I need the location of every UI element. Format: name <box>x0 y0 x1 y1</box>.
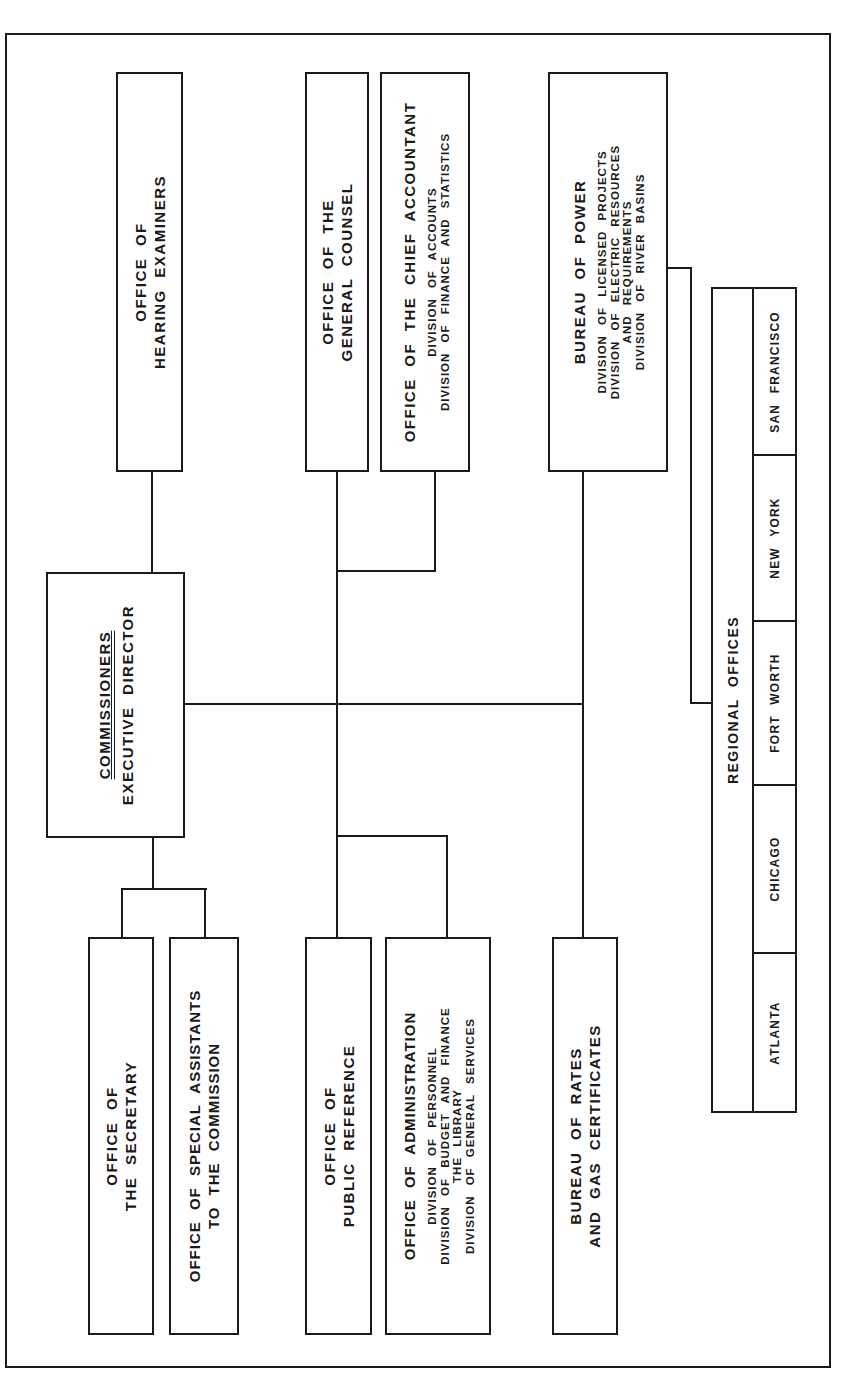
box-rates-gas[interactable]: BUREAU OF RATES AND GAS CERTIFICATES <box>552 937 618 1335</box>
regional-city-atlanta[interactable]: ATLANTA <box>754 954 795 1111</box>
regional-city-san-francisco[interactable]: SAN FRANCISCO <box>754 289 795 456</box>
hearing-line1: OFFICE OF <box>131 222 150 322</box>
hearing-line2: HEARING EXAMINERS <box>150 175 169 369</box>
connector-power-regional-top <box>667 267 692 269</box>
administration-library: THE LIBRARY <box>451 1089 464 1183</box>
regional-city-new-york[interactable]: NEW YORK <box>754 456 795 622</box>
counsel-line1: OFFICE OF THE <box>318 199 337 345</box>
connector-administration-join <box>337 835 448 837</box>
regional-title: REGIONAL OFFICES <box>724 616 743 784</box>
accountant-division-finance: DIVISION OF FINANCE AND STATISTICS <box>438 133 451 411</box>
reference-line2: PUBLIC REFERENCE <box>339 1045 358 1228</box>
connector-power-regional <box>690 267 692 704</box>
secretary-line2: THE SECRETARY <box>121 1061 140 1212</box>
power-title: BUREAU OF POWER <box>570 180 589 365</box>
connector-accountant <box>434 470 436 572</box>
city-label: CHICAGO <box>768 836 782 901</box>
box-commissioners[interactable]: COMMISSIONERS EXECUTIVE DIRECTOR <box>46 572 185 838</box>
special-line1: OFFICE OF SPECIAL ASSISTANTS <box>185 990 204 1282</box>
box-bureau-of-power[interactable]: BUREAU OF POWER DIVISION OF LICENSED PRO… <box>548 72 668 472</box>
administration-title: OFFICE OF ADMINISTRATION <box>400 1012 419 1260</box>
executive-director-title: EXECUTIVE DIRECTOR <box>118 605 137 805</box>
city-label: NEW YORK <box>768 497 782 578</box>
box-special-assistants[interactable]: OFFICE OF SPECIAL ASSISTANTS TO THE COMM… <box>169 937 239 1335</box>
box-chief-accountant[interactable]: OFFICE OF THE CHIEF ACCOUNTANT DIVISION … <box>380 72 470 472</box>
administration-division-general-services: DIVISION OF GENERAL SERVICES <box>464 1018 477 1254</box>
connector-commissioners-down <box>152 836 154 890</box>
connector-counsel-reference <box>336 470 338 938</box>
counsel-line2: GENERAL COUNSEL <box>337 182 356 361</box>
connector-administration <box>446 835 448 938</box>
box-secretary[interactable]: OFFICE OF THE SECRETARY <box>88 937 154 1335</box>
connector-power-rates <box>582 470 584 938</box>
connector-secretary <box>121 888 123 938</box>
connector-accountant-join <box>337 570 436 572</box>
box-administration[interactable]: OFFICE OF ADMINISTRATION DIVISION OF PER… <box>385 937 491 1335</box>
connector-power-regional-bottom <box>690 702 712 704</box>
administration-division-budget: DIVISION OF BUDGET AND FINANCE <box>439 1007 452 1264</box>
box-hearing-examiners[interactable]: OFFICE OF HEARING EXAMINERS <box>116 72 183 472</box>
city-label: ATLANTA <box>768 1001 782 1064</box>
accountant-division-accounts: DIVISION OF ACCOUNTS <box>426 187 439 357</box>
power-division-requirements: AND REQUIREMENTS <box>621 201 634 344</box>
connector-special <box>204 888 206 938</box>
regional-city-fort-worth[interactable]: FORT WORTH <box>754 622 795 786</box>
secretary-line1: OFFICE OF <box>102 1086 121 1186</box>
special-line2: TO THE COMMISSION <box>204 1043 223 1229</box>
box-regional-offices[interactable]: REGIONAL OFFICES SAN FRANCISCO NEW YORK … <box>711 287 797 1113</box>
power-division-electric: DIVISION OF ELECTRIC RESOURCES <box>609 145 622 399</box>
connector-hearing <box>151 470 153 572</box>
power-division-licensed: DIVISION OF LICENSED PROJECTS <box>596 150 609 393</box>
rates-line2: AND GAS CERTIFICATES <box>585 1024 604 1247</box>
connector-secretary-branch <box>121 888 207 890</box>
box-public-reference[interactable]: OFFICE OF PUBLIC REFERENCE <box>305 937 372 1335</box>
administration-division-personnel: DIVISION OF PERSONNEL <box>426 1047 439 1224</box>
accountant-title: OFFICE OF THE CHIEF ACCOUNTANT <box>400 102 419 443</box>
box-general-counsel[interactable]: OFFICE OF THE GENERAL COUNSEL <box>305 72 369 472</box>
regional-city-chicago[interactable]: CHICAGO <box>754 786 795 954</box>
connector-main-horizontal <box>184 703 584 705</box>
power-division-river-basins: DIVISION OF RIVER BASINS <box>634 174 647 371</box>
reference-line1: OFFICE OF <box>320 1086 339 1186</box>
regional-header: REGIONAL OFFICES <box>713 289 753 1111</box>
rates-line1: BUREAU OF RATES <box>566 1047 585 1225</box>
city-label: SAN FRANCISCO <box>768 311 782 433</box>
city-label: FORT WORTH <box>768 653 782 752</box>
commissioners-title: COMMISSIONERS <box>95 631 114 780</box>
